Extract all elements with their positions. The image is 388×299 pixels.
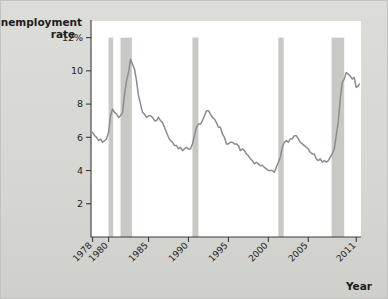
y-tick-label: 10	[71, 65, 83, 76]
x-axis-title: Year	[345, 280, 373, 292]
unemployment-line-chart: 12%108642 197819801985199019952000200520…	[0, 0, 388, 299]
x-tick-label: 1990	[167, 240, 190, 263]
y-tick-labels-group: 12%108642	[62, 32, 83, 209]
x-tick-label: 1995	[207, 240, 230, 263]
band-recession-1980	[109, 38, 114, 237]
figure-panel: 12%108642 197819801985199019952000200520…	[0, 0, 388, 299]
x-tick-label: 1985	[127, 240, 150, 263]
y-tick-label: 2	[77, 198, 83, 209]
x-tick-labels-group: 19781980198519901995200020052011	[71, 240, 358, 263]
x-tick-label: 2005	[286, 240, 309, 263]
band-recession-1981-82	[121, 38, 132, 237]
y-axis-title-line1: Unemployment	[0, 16, 82, 28]
band-recession-2001	[278, 38, 283, 237]
x-tick-label: 2000	[246, 240, 269, 263]
y-axis-title-line2: rate	[51, 28, 75, 40]
y-tick-label: 8	[77, 98, 83, 109]
y-tick-label: 4	[77, 165, 83, 176]
y-tick-label: 6	[77, 132, 83, 143]
x-tick-label: 2011	[334, 240, 357, 263]
band-recession-2007-09	[332, 38, 345, 237]
